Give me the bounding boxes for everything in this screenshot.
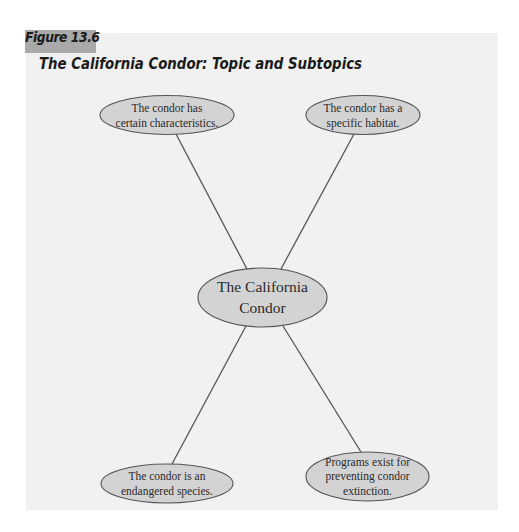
subtopic-text-top-left: The condor has certain characteristics. xyxy=(100,96,234,135)
subtopic-line: The condor has a xyxy=(324,101,403,115)
subtopic-line: endangered species. xyxy=(121,484,213,498)
connector-bottom-left xyxy=(172,326,246,464)
connector-top-right xyxy=(281,134,354,269)
central-topic-text: The California Condor xyxy=(198,268,327,327)
subtopic-line: certain characteristics. xyxy=(116,116,219,130)
subtopic-text-bottom-right: Programs exist for preventing condor ext… xyxy=(306,452,429,501)
subtopic-line: extinction. xyxy=(325,484,410,498)
subtopic-text-top-right: The condor has a specific habitat. xyxy=(306,96,420,135)
subtopic-line: The condor has xyxy=(116,101,219,115)
subtopic-line: Programs exist for xyxy=(325,455,410,469)
connector-bottom-right xyxy=(283,326,361,452)
subtopic-line: specific habitat. xyxy=(324,116,403,130)
central-topic-line: Condor xyxy=(217,298,308,318)
subtopic-line: preventing condor xyxy=(325,469,410,483)
connector-top-left xyxy=(176,134,247,269)
concept-map xyxy=(0,0,519,532)
subtopic-line: The condor is an xyxy=(121,469,213,483)
central-topic-line: The California xyxy=(217,277,308,297)
subtopic-text-bottom-left: The condor is an endangered species. xyxy=(101,464,233,503)
